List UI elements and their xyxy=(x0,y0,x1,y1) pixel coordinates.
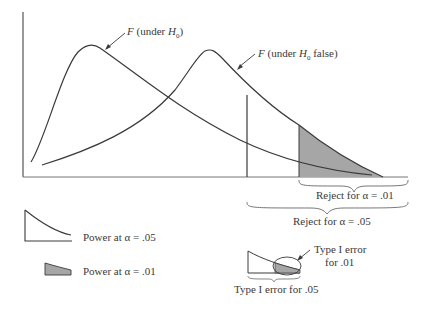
diagram-canvas xyxy=(0,0,433,310)
label-under-h0: F (under H0) xyxy=(127,26,183,40)
label-suffix: false) xyxy=(310,47,337,59)
label-reject-01: Reject for α = .01 xyxy=(316,190,394,201)
label-f: F xyxy=(258,47,265,59)
power-01-shaded-region xyxy=(299,125,383,177)
label-var: H xyxy=(168,25,176,37)
label-reject-05: Reject for α = .05 xyxy=(293,216,371,227)
legend-power-05-label: Power at α = .05 xyxy=(83,232,156,243)
inset-label-type1-01-line1: Type I error xyxy=(314,244,366,255)
legend-power-01-label: Power at α = .01 xyxy=(83,266,156,277)
brace-reject-05 xyxy=(247,202,408,214)
label-var: H xyxy=(299,47,307,59)
legend-power-05-box xyxy=(25,210,72,241)
label-text: (under xyxy=(267,47,298,59)
legend-power-05-curve xyxy=(25,210,71,235)
inset-curve xyxy=(248,251,300,270)
inset-brace xyxy=(248,276,300,282)
inset-type1-01-shade xyxy=(275,263,300,273)
legend-power-01-swatch xyxy=(45,263,71,275)
label-under-h0-false: F (under H0 false) xyxy=(258,48,338,62)
arrow-h0-false xyxy=(239,54,255,67)
inset-label-type1-01-line2: for .01 xyxy=(325,257,354,268)
label-text: (under xyxy=(136,25,167,37)
label-f: F xyxy=(127,25,134,37)
inset-label-type1-05: Type I error for .05 xyxy=(234,284,318,295)
label-suffix: ) xyxy=(179,25,183,37)
